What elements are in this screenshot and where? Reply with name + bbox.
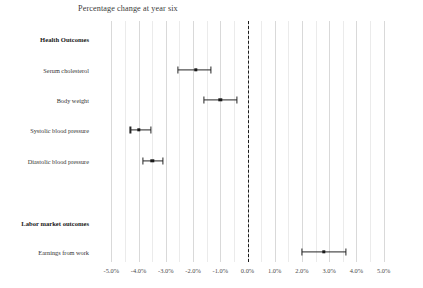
estimate-point-marker	[194, 68, 197, 71]
gridline-major	[384, 21, 385, 262]
estimate-point-marker	[137, 128, 140, 131]
x-tick-label: 3.0%	[323, 267, 336, 274]
confidence-interval-cap	[130, 127, 131, 134]
gridline-minor	[316, 21, 317, 262]
confidence-interval-cap	[142, 157, 143, 164]
estimate-point-marker	[219, 98, 222, 101]
confidence-interval-line	[130, 129, 150, 130]
gridline-minor	[370, 21, 371, 262]
gridline-major	[193, 21, 194, 262]
gridline-major	[139, 21, 140, 262]
confidence-interval-cap	[203, 96, 204, 103]
x-tick-label: 0.0%	[241, 267, 254, 274]
gridline-minor	[152, 21, 153, 262]
gridline-major	[111, 21, 112, 262]
x-tick-label: 4.0%	[350, 267, 363, 274]
row-label: Body weight	[57, 96, 89, 103]
gridline-major	[220, 21, 221, 262]
estimate-point-marker	[322, 250, 325, 253]
row-group-label: Labor market outcomes	[21, 220, 89, 227]
row-label: Systolic blood pressure	[30, 127, 89, 134]
x-tick-label: -3.0%	[158, 267, 173, 274]
gridline-minor	[179, 21, 180, 262]
confidence-interval-cap	[345, 249, 346, 256]
confidence-interval-cap	[162, 157, 163, 164]
row-group-label: Health Outcomes	[40, 36, 89, 43]
confidence-interval-cap	[210, 67, 211, 74]
confidence-interval-cap	[177, 67, 178, 74]
row-label: Diastolic blood pressure	[28, 157, 89, 164]
gridline-minor	[207, 21, 208, 262]
x-tick-label: 1.0%	[268, 267, 281, 274]
gridline-minor	[261, 21, 262, 262]
estimate-point-marker	[150, 159, 153, 162]
gridline-major	[275, 21, 276, 262]
gridline-major	[302, 21, 303, 262]
row-label: Serum cholesterol	[43, 67, 89, 74]
x-tick-label: 2.0%	[295, 267, 308, 274]
chart-title: Percentage change at year six	[78, 4, 178, 13]
x-tick-label: -5.0%	[104, 267, 119, 274]
row-label: Earnings from work	[38, 249, 89, 256]
gridline-major	[356, 21, 357, 262]
gridline-major	[329, 21, 330, 262]
x-tick-label: 5.0%	[377, 267, 390, 274]
x-tick-label: -2.0%	[185, 267, 200, 274]
x-tick-label: -1.0%	[213, 267, 228, 274]
forest-plot-chart: Percentage change at year six -5.0%-4.0%…	[0, 0, 423, 288]
gridline-minor	[343, 21, 344, 262]
gridline-minor	[125, 21, 126, 262]
zero-reference-line	[248, 21, 249, 262]
gridline-minor	[234, 21, 235, 262]
gridline-major	[166, 21, 167, 262]
x-tick-label: -4.0%	[131, 267, 146, 274]
gridline-minor	[288, 21, 289, 262]
confidence-interval-cap	[150, 127, 151, 134]
confidence-interval-cap	[236, 96, 237, 103]
confidence-interval-cap	[301, 249, 302, 256]
plot-area	[95, 21, 400, 262]
